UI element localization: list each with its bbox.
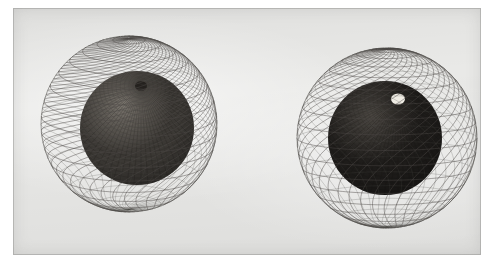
texture-ray [361, 0, 397, 95]
scanned-plate: Two nested sphere figures Dark inner sph… [0, 0, 494, 268]
crosshatch-mesh [297, 48, 477, 228]
texture-ray [399, 0, 435, 95]
texture-ray [402, 36, 494, 97]
texture-ray [399, 0, 417, 95]
inner-dark-sphere [267, 0, 494, 230]
right-figure [13, 8, 481, 255]
mesh-parallel-back [319, 71, 456, 79]
texture-ray [401, 6, 491, 96]
figure-group [13, 8, 481, 255]
texture-ray [400, 0, 469, 95]
texture-ray [401, 0, 484, 96]
plate-surface [13, 8, 481, 255]
texture-ray [398, 0, 407, 95]
texture-ray [379, 0, 397, 95]
mesh-meridian-front [319, 49, 387, 80]
